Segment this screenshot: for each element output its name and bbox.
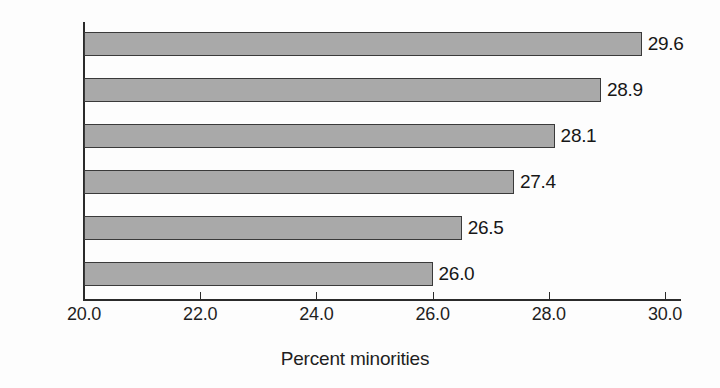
x-axis-tick-label: 26.0: [415, 304, 449, 325]
bar-row: 26.01990: [84, 262, 665, 286]
bar: [84, 262, 433, 286]
x-axis-tick: [316, 292, 317, 300]
x-axis-tick: [200, 292, 201, 300]
x-axis-tick: [433, 292, 434, 300]
x-axis-tick: [84, 292, 85, 300]
bar-row: 26.51992: [84, 216, 665, 240]
bar: [84, 78, 601, 102]
bar-value-label: 27.4: [520, 171, 556, 193]
bar: [84, 170, 514, 194]
x-axis-tick-label: 28.0: [532, 304, 566, 325]
bar: [84, 216, 462, 240]
bar-value-label: 26.5: [468, 217, 504, 239]
x-axis-title-text: Percent minorities: [281, 348, 429, 370]
x-axis-tick-label: 22.0: [183, 304, 217, 325]
x-axis-tick: [549, 292, 550, 300]
x-axis-title: Percent minorities: [0, 348, 720, 370]
bar-row: 29.62000: [84, 32, 665, 56]
bar-chart: 29.6200028.9199828.1199627.4199426.51992…: [0, 0, 720, 388]
bar-value-label: 28.1: [561, 125, 597, 147]
bar-value-label: 26.0: [439, 263, 475, 285]
x-axis-tick-label: 30.0: [648, 304, 682, 325]
bar-row: 27.41994: [84, 170, 665, 194]
x-axis-tick: [665, 292, 666, 300]
bar-row: 28.11996: [84, 124, 665, 148]
bar: [84, 32, 642, 56]
bar: [84, 124, 555, 148]
bar-value-label: 28.9: [607, 79, 643, 101]
bar-value-label: 29.6: [648, 33, 684, 55]
bar-row: 28.91998: [84, 78, 665, 102]
x-axis-tick-label: 20.0: [67, 304, 101, 325]
plot-area: 29.6200028.9199828.1199627.4199426.51992…: [84, 22, 665, 300]
x-axis-tick-label: 24.0: [299, 304, 333, 325]
